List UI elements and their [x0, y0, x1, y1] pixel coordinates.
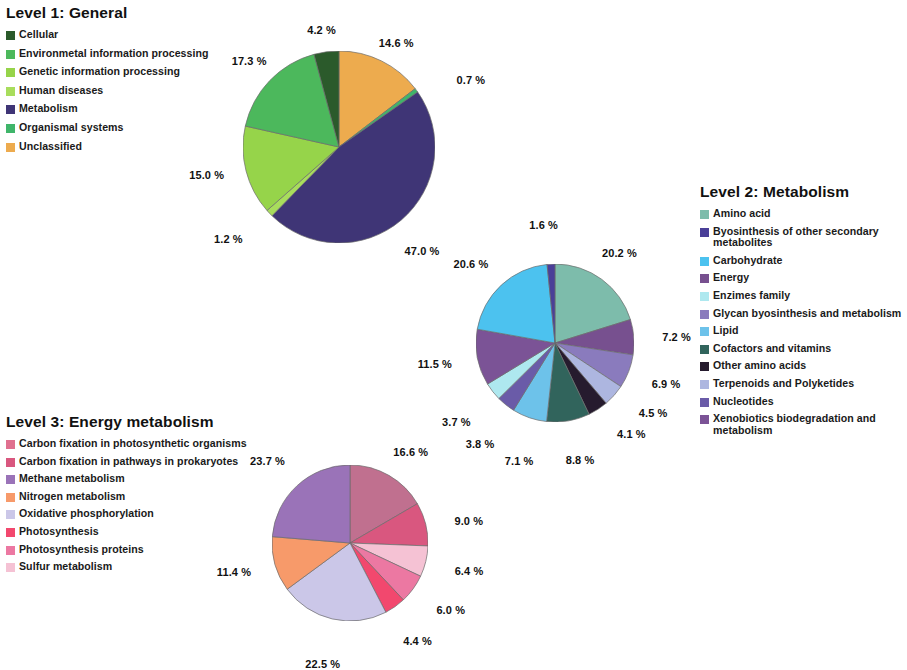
pie-percentage-label: 11.5 % [418, 358, 452, 370]
level1-legend-item: Metabolism [6, 103, 236, 115]
level2-legend-label: Other amino acids [713, 360, 806, 372]
level3-legend-item: Methane metabolism [6, 473, 268, 485]
pie-percentage-label: 6.4 % [455, 565, 484, 577]
legend-color-swatch-icon [6, 563, 15, 572]
level1-legend-item: Cellular [6, 29, 236, 41]
legend-color-swatch-icon [6, 50, 15, 59]
legend-color-swatch-icon [700, 274, 709, 283]
legend-color-swatch-icon [6, 124, 15, 133]
legend-color-swatch-icon [6, 143, 15, 152]
level2-legend-item: Enzimes family [700, 290, 905, 302]
level2-pie-chart: 20.2 %7.2 %6.9 %4.5 %4.1 %8.8 %7.1 %3.8 … [455, 243, 655, 443]
level2-legend-label: Amino acid [713, 208, 771, 220]
pie-percentage-label: 3.8 % [466, 438, 495, 450]
legend-color-swatch-icon [6, 493, 15, 502]
pie-percentage-label: 6.9 % [652, 378, 681, 390]
level2-legend-label: Cofactors and vitamins [713, 343, 831, 355]
legend-color-swatch-icon [6, 475, 15, 484]
level2-legend-item: Glycan byosinthesis and metabolism [700, 308, 905, 320]
level2-legend-item: Other amino acids [700, 360, 905, 372]
level2-legend-item: Nucleotides [700, 396, 905, 408]
level2-legend-label: Lipid [713, 325, 739, 337]
pie-percentage-label: 23.7 % [250, 455, 285, 467]
level1-legend-label: Genetic information processing [19, 66, 180, 78]
pie-percentage-label: 3.7 % [442, 416, 471, 428]
level3-legend-item: Carbon fixation in photosynthetic organi… [6, 438, 268, 450]
level1-legend-label: Organismal systems [19, 122, 124, 134]
legend-color-swatch-icon [700, 398, 709, 407]
pie-percentage-label: 1.2 % [214, 233, 243, 245]
level1-pie-chart: 14.6 %0.7 %47.0 %1.2 %15.0 %17.3 %4.2 % [226, 22, 452, 272]
level2-legend-label: Xenobiotics biodegradation and metabolis… [713, 413, 905, 436]
pie-slices [272, 465, 428, 621]
level3-legend-item: Oxidative phosphorylation [6, 508, 268, 520]
pie-percentage-label: 47.0 % [405, 245, 440, 257]
level3-legend-label: Sulfur metabolism [19, 561, 112, 573]
level3-legend-label: Carbon fixation in pathways in prokaryot… [19, 456, 238, 468]
level1-legend-label: Environmetal information processing [19, 48, 209, 60]
level2-legend-item: Cofactors and vitamins [700, 343, 905, 355]
legend-color-swatch-icon [700, 228, 709, 237]
legend-color-swatch-icon [6, 87, 15, 96]
legend-color-swatch-icon [700, 310, 709, 319]
level2-legend-label: Energy [713, 272, 749, 284]
legend-color-swatch-icon [700, 415, 709, 424]
pie-percentage-label: 11.4 % [217, 566, 251, 578]
level3-legend-item: Nitrogen metabolism [6, 491, 268, 503]
level2-legend-label: Byosinthesis of other secondary metaboli… [713, 226, 905, 249]
level2-legend-item: Xenobiotics biodegradation and metabolis… [700, 413, 905, 436]
pie-percentage-label: 4.4 % [403, 635, 432, 647]
pie-percentage-label: 15.0 % [189, 169, 224, 181]
level3-legend-item: Carbon fixation in pathways in prokaryot… [6, 456, 268, 468]
level2-legend-item: Terpenoids and Polyketides [700, 378, 905, 390]
level2-panel: Level 2: Metabolism Amino acidByosinthes… [700, 183, 905, 442]
level1-title: Level 1: General [6, 4, 236, 22]
legend-color-swatch-icon [6, 546, 15, 555]
level2-title: Level 2: Metabolism [700, 183, 905, 201]
level2-legend-label: Carbohydrate [713, 255, 782, 267]
legend-color-swatch-icon [6, 528, 15, 537]
level1-legend-label: Human diseases [19, 85, 103, 97]
pie-percentage-label: 20.2 % [602, 247, 637, 259]
level1-legend-label: Metabolism [19, 103, 78, 115]
legend-color-swatch-icon [700, 380, 709, 389]
legend-color-swatch-icon [6, 105, 15, 114]
level2-legend-label: Nucleotides [713, 396, 774, 408]
pie-slices [243, 51, 435, 243]
level3-legend-item: Photosynthesis proteins [6, 544, 268, 556]
level2-legend-item: Energy [700, 272, 905, 284]
pie-percentage-label: 7.2 % [662, 331, 691, 343]
level1-legend-label: Cellular [19, 29, 58, 41]
level3-legend-label: Carbon fixation in photosynthetic organi… [19, 438, 247, 450]
level2-legend-label: Glycan byosinthesis and metabolism [713, 308, 901, 320]
level1-legend-item: Genetic information processing [6, 66, 236, 78]
legend-color-swatch-icon [700, 210, 709, 219]
pie-percentage-label: 9.0 % [455, 515, 484, 527]
legend-color-swatch-icon [6, 510, 15, 519]
pie-slices [476, 264, 634, 422]
legend-color-swatch-icon [6, 31, 15, 40]
level1-panel: Level 1: General CellularEnvironmetal in… [6, 4, 236, 159]
pie-percentage-label: 16.6 % [393, 446, 428, 458]
pie-percentage-label: 20.6 % [454, 258, 489, 270]
level1-legend-item: Environmetal information processing [6, 48, 236, 60]
pie-percentage-label: 22.5 % [305, 658, 340, 670]
pie-percentage-label: 4.2 % [307, 24, 336, 36]
level2-legend: Amino acidByosinthesis of other secondar… [700, 208, 905, 436]
legend-color-swatch-icon [6, 440, 15, 449]
pie-slice [477, 264, 555, 343]
level2-legend-item: Byosinthesis of other secondary metaboli… [700, 226, 905, 249]
pie-slice [272, 465, 350, 543]
level3-legend-label: Photosynthesis proteins [19, 544, 144, 556]
level2-legend-item: Amino acid [700, 208, 905, 220]
pie-percentage-label: 4.5 % [639, 407, 668, 419]
level1-legend-item: Organismal systems [6, 122, 236, 134]
level3-legend-label: Nitrogen metabolism [19, 491, 125, 503]
pie-percentage-label: 0.7 % [457, 74, 486, 86]
pie-percentage-label: 17.3 % [232, 55, 267, 67]
pie-percentage-label: 8.8 % [566, 454, 595, 466]
legend-color-swatch-icon [700, 292, 709, 301]
level3-panel: Level 3: Energy metabolism Carbon fixati… [6, 413, 268, 579]
pie-percentage-label: 14.6 % [379, 37, 414, 49]
level3-title: Level 3: Energy metabolism [6, 413, 268, 431]
